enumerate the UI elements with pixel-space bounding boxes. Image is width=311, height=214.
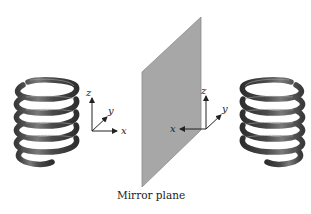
right-y-label: y bbox=[221, 103, 228, 114]
right-spring bbox=[242, 79, 302, 164]
left-spring bbox=[16, 79, 76, 164]
left-y-axis bbox=[92, 117, 107, 131]
left-y-label: y bbox=[107, 105, 114, 116]
right-x-label: x bbox=[170, 123, 176, 134]
mirror-plane-caption: Mirror plane bbox=[117, 189, 185, 201]
right-z-label: z bbox=[200, 85, 207, 96]
left-z-label: z bbox=[85, 87, 92, 98]
mirror-plane bbox=[142, 17, 201, 187]
left-x-label: x bbox=[121, 125, 127, 136]
right-y-axis bbox=[206, 115, 221, 129]
mirror-symmetry-diagram: z x y z x y bbox=[0, 0, 311, 214]
